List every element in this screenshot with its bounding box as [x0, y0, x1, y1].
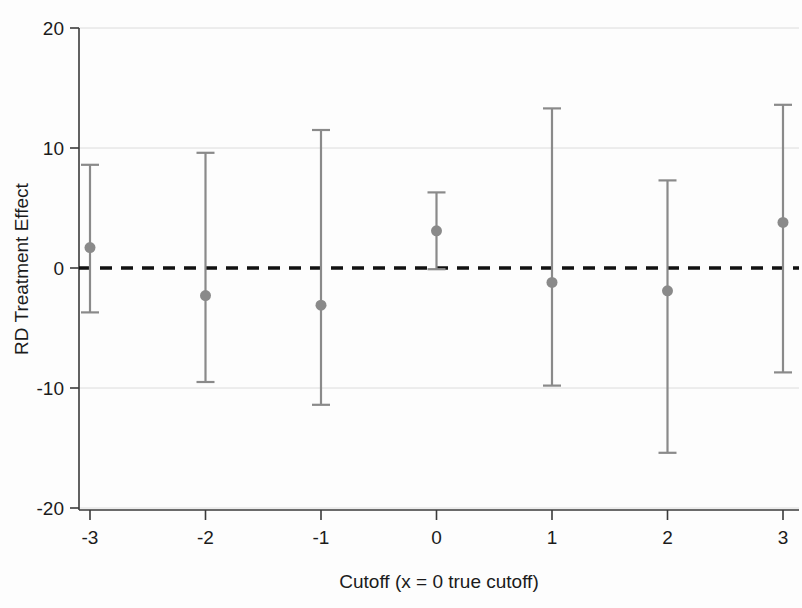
x-tick-label: -2 — [197, 527, 214, 548]
data-point-group — [81, 165, 99, 313]
x-tick-label: 0 — [431, 527, 442, 548]
estimate-marker — [200, 290, 211, 301]
x-tick-label: 2 — [662, 527, 673, 548]
estimate-marker — [85, 242, 96, 253]
rd-treatment-effect-chart: -20-1001020 -3-2-10123 Cutoff (x = 0 tru… — [0, 0, 802, 608]
x-axis-title: Cutoff (x = 0 true cutoff) — [339, 571, 538, 592]
y-axis-title: RD Treatment Effect — [11, 182, 32, 354]
y-tick-label: 10 — [43, 138, 64, 159]
chart-canvas: -20-1001020 -3-2-10123 Cutoff (x = 0 tru… — [0, 0, 802, 608]
estimate-series — [81, 105, 792, 453]
y-axis-ticks: -20-1001020 — [37, 18, 79, 519]
y-tick-label: 0 — [53, 258, 64, 279]
estimate-marker — [547, 277, 558, 288]
estimate-marker — [316, 300, 327, 311]
estimate-marker — [431, 225, 442, 236]
x-tick-label: 1 — [547, 527, 558, 548]
data-point-group — [428, 192, 446, 269]
x-tick-label: 3 — [778, 527, 789, 548]
y-tick-label: -20 — [37, 498, 64, 519]
x-tick-label: -3 — [82, 527, 99, 548]
x-axis-ticks: -3-2-10123 — [82, 510, 789, 548]
data-point-group — [774, 105, 792, 373]
x-tick-label: -1 — [313, 527, 330, 548]
estimate-marker — [778, 217, 789, 228]
y-tick-label: 20 — [43, 18, 64, 39]
data-point-group — [543, 108, 561, 385]
estimate-marker — [662, 285, 673, 296]
y-tick-label: -10 — [37, 378, 64, 399]
data-point-group — [659, 180, 677, 452]
